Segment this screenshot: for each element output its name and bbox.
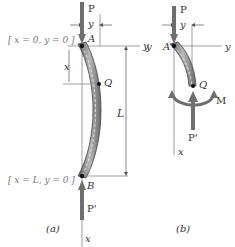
caption-b: (b) — [176, 223, 190, 234]
label-a-b: A — [162, 41, 170, 52]
label-q-b: Q — [199, 79, 207, 90]
label-y-left-b: y — [145, 41, 152, 52]
label-q: Q — [104, 77, 112, 88]
label-p-prime: P' — [87, 203, 96, 214]
top-boundary-condition: [ x = 0, y = 0 ] — [8, 35, 75, 45]
load-p-arrow-b — [172, 6, 176, 36]
point-q-b — [191, 84, 195, 88]
load-p-arrow — [80, 2, 84, 36]
point-q — [97, 82, 101, 86]
label-p: P — [88, 3, 95, 14]
buckling-column-diagram: P y A y x Q L B P' x [ x = 0, y = 0 ] [ … — [0, 0, 235, 247]
label-y-right-b: y — [224, 41, 231, 52]
label-p-b: P — [180, 4, 187, 15]
figure-a: P y A y x Q L B P' x [ x = 0, y = 0 ] [ … — [8, 2, 149, 247]
label-L: L — [116, 107, 124, 120]
point-b — [80, 174, 84, 178]
label-y-dim-b: y — [179, 19, 186, 30]
column-a — [78, 42, 101, 178]
label-x-dim: x — [64, 61, 70, 72]
point-a-b — [172, 44, 176, 48]
label-p-prime-b: P' — [188, 132, 197, 143]
figure-b: P y y A y Q M P' x (b) — [145, 4, 231, 234]
point-a — [80, 44, 84, 48]
label-a: A — [87, 33, 95, 44]
bottom-boundary-condition: [ x = L, y = 0 ] — [8, 175, 75, 185]
label-y-dim: y — [87, 18, 94, 29]
diagram-canvas: P y A y x Q L B P' x [ x = 0, y = 0 ] [ … — [0, 0, 235, 247]
caption-a: (a) — [46, 223, 60, 234]
load-p-prime-arrow — [80, 188, 84, 220]
label-m: M — [216, 95, 226, 106]
label-x-axis-b: x — [178, 146, 184, 157]
label-b: B — [86, 180, 94, 191]
label-x-axis: x — [85, 233, 91, 244]
